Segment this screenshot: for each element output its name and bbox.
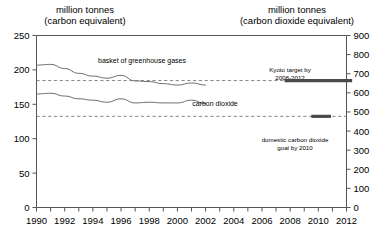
domestic-goal-caption-line2: goal by 2010 (277, 144, 313, 151)
series-line-carbon-dioxide (37, 93, 206, 103)
x-tick-label: 2004 (223, 215, 244, 226)
domestic-goal-caption-line1: domestic carbon dioxide (262, 136, 329, 143)
left-tick-label: 150 (14, 99, 30, 110)
x-tick-label: 2012 (336, 215, 357, 226)
right-tick-label: 900 (354, 30, 370, 41)
kyoto-target-caption-line1: Kyoto target by (269, 66, 312, 73)
x-tick-label: 1992 (54, 215, 75, 226)
x-tick-label: 2000 (167, 215, 188, 226)
right-tick-label: 400 (354, 126, 370, 137)
right-tick-label: 600 (354, 87, 370, 98)
right-tick-label: 100 (354, 183, 370, 194)
left-axis-header-line2: (carbon equivalent) (44, 15, 125, 26)
right-tick-label: 200 (354, 164, 370, 175)
emissions-chart: million tonnes(carbon equivalent)million… (0, 0, 389, 245)
x-tick-label: 2002 (195, 215, 216, 226)
x-tick-label: 1990 (26, 215, 47, 226)
right-tick-label: 300 (354, 145, 370, 156)
x-tick-label: 2010 (308, 215, 329, 226)
x-tick-label: 1996 (110, 215, 131, 226)
right-tick-label: 0 (354, 202, 359, 213)
right-axis-header-line1: million tonnes (268, 4, 326, 15)
right-tick-label: 800 (354, 49, 370, 60)
right-tick-label: 700 (354, 68, 370, 79)
series-label-greenhouse-gases: basket of greenhouse gases (98, 57, 186, 65)
x-tick-label: 1998 (139, 215, 160, 226)
left-axis-header-line1: million tonnes (56, 4, 114, 15)
left-tick-label: 250 (14, 30, 30, 41)
left-tick-label: 50 (19, 168, 30, 179)
left-tick-label: 100 (14, 133, 30, 144)
chart-canvas: million tonnes(carbon equivalent)million… (0, 0, 389, 245)
right-axis-header-line2: (carbon dioxide equivalent) (240, 15, 354, 26)
x-tick-label: 2008 (280, 215, 301, 226)
right-tick-label: 500 (354, 106, 370, 117)
x-tick-label: 2006 (251, 215, 272, 226)
left-tick-label: 200 (14, 64, 30, 75)
series-line-basket-of-greenhouse-gases (37, 64, 206, 85)
x-tick-label: 1994 (82, 215, 103, 226)
left-tick-label: 0 (24, 202, 29, 213)
series-label-carbon-dioxide: carbon dioxide (192, 100, 238, 107)
